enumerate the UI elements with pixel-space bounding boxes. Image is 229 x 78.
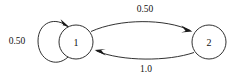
- edge-2-to-1: [95, 49, 194, 59]
- edge-1-to-2-path: [91, 22, 191, 32]
- self-loop-arrowhead-icon: [59, 19, 70, 27]
- edge-2-to-1-probability-label: 1.0: [140, 64, 152, 74]
- edge-2-to-1-path: [97, 51, 195, 59]
- node-2[interactable]: 2: [192, 25, 226, 59]
- self-loop-probability-label: 0.50: [9, 36, 26, 46]
- edge-1-to-2: [91, 22, 192, 33]
- edge-1-to-2-probability-label: 0.50: [137, 4, 154, 14]
- edge-1-to-2-arrowhead-icon: [181, 26, 192, 33]
- edge-2-to-1-arrowhead-icon: [95, 49, 106, 56]
- node-2-label: 2: [207, 37, 212, 48]
- markov-chain-diagram: 1 2 0.50 0.50 1.0: [0, 0, 229, 78]
- node-1-label: 1: [74, 37, 79, 48]
- state-diagram-canvas: 1 2 0.50 0.50 1.0: [0, 0, 229, 78]
- node-1[interactable]: 1: [59, 25, 93, 59]
